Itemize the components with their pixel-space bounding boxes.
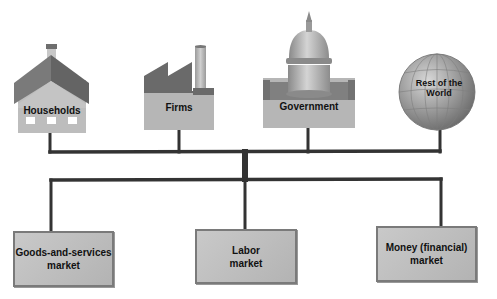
house-icon: [14, 44, 89, 133]
labor-market-line1: Labor: [230, 244, 263, 257]
money-financial-market-label: Money (financial) market: [386, 241, 468, 267]
rest-of-world-label-line1: Rest of the: [407, 78, 471, 88]
factory-icon: [144, 45, 214, 130]
connector-lines: [50, 128, 441, 232]
rest-of-world-label: Rest of the World: [407, 78, 471, 98]
labor-market-label: Labor market: [230, 244, 263, 270]
money-market-line2: market: [386, 254, 468, 267]
goods-and-services-market-label: Goods-and-services market: [15, 246, 111, 272]
labor-market-box: Labor market: [195, 229, 297, 284]
labor-market-line2: market: [230, 257, 263, 270]
rest-of-world-label-line2: World: [407, 88, 471, 98]
firms-label: Firms: [144, 102, 214, 113]
goods-market-line1: Goods-and-services: [15, 246, 111, 259]
government-label: Government: [263, 101, 355, 112]
money-market-line1: Money (financial): [386, 241, 468, 254]
goods-and-services-market-box: Goods-and-services market: [13, 231, 114, 287]
money-financial-market-box: Money (financial) market: [376, 226, 477, 282]
goods-market-line2: market: [15, 259, 111, 272]
households-label: Households: [18, 105, 86, 116]
economy-diagram: Households Firms Government Rest of the …: [0, 0, 497, 299]
